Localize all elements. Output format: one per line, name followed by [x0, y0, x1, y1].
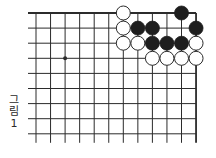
white-stone	[116, 21, 130, 35]
black-stone	[145, 36, 159, 50]
white-stone	[189, 51, 203, 65]
white-stone	[131, 36, 145, 50]
black-stone	[175, 6, 189, 20]
caption-char-2: 림	[9, 106, 19, 117]
white-stone	[160, 51, 174, 65]
white-stone	[145, 51, 159, 65]
stones-layer	[116, 6, 203, 65]
black-stone	[131, 21, 145, 35]
white-stone	[116, 6, 130, 20]
board-grid-lines	[28, 13, 196, 143]
black-stone	[160, 36, 174, 50]
go-board-diagram	[0, 0, 216, 158]
figure-caption: 그 림 1	[5, 95, 23, 129]
black-stone	[189, 21, 203, 35]
black-stone	[175, 36, 189, 50]
white-stone	[189, 36, 203, 50]
star-points	[63, 56, 67, 60]
white-stone	[116, 36, 130, 50]
caption-char-3: 1	[11, 118, 18, 129]
black-stone	[145, 21, 159, 35]
white-stone	[175, 51, 189, 65]
star-point	[63, 56, 67, 60]
